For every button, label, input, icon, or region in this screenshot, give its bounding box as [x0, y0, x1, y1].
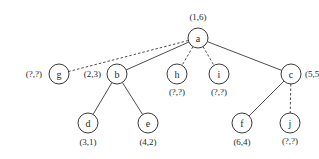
tree-node-g: g(?,?) [26, 64, 69, 84]
node-label: d [86, 118, 91, 129]
node-label: h [175, 69, 180, 80]
node-annotation: (4,2) [139, 137, 156, 147]
node-annotation: (3,1) [79, 137, 96, 147]
edge-a-i [203, 47, 214, 66]
node-label: e [146, 118, 151, 129]
node-annotation: (?,?) [26, 69, 42, 79]
node-annotation: (1,6) [189, 12, 206, 22]
tree-node-e: e(4,2) [138, 113, 158, 147]
node-annotation: (?,?) [282, 136, 298, 146]
edge-c-j [290, 84, 291, 113]
tree-node-j: j(?,?) [280, 113, 300, 146]
node-annotation: (5,5) [305, 69, 319, 79]
nodes: a(1,6)g(?,?)b(2,3)h(?,?)i(?,?)c(5,5)d(3,… [26, 12, 319, 147]
node-annotation: (?,?) [169, 87, 185, 97]
edge-c-f [249, 81, 284, 116]
tree-node-a: a(1,6) [188, 12, 208, 48]
node-label: b [115, 69, 120, 80]
node-label: g [57, 69, 62, 80]
node-label: a [196, 33, 201, 44]
node-annotation: (6,4) [233, 137, 250, 147]
edge-b-e [122, 82, 142, 114]
tree-node-f: f(6,4) [232, 113, 252, 147]
node-annotation: (?,?) [211, 87, 227, 97]
edge-b-d [93, 83, 112, 115]
node-label: c [289, 69, 294, 80]
tree-node-h: h(?,?) [167, 64, 187, 97]
edge-a-h [182, 47, 193, 66]
tree-node-i: i(?,?) [209, 64, 229, 97]
node-label: j [288, 118, 292, 129]
tree-node-d: d(3,1) [78, 113, 98, 147]
tree-node-c: c(5,5) [281, 64, 319, 84]
node-annotation: (2,3) [84, 69, 101, 79]
tree-diagram: a(1,6)g(?,?)b(2,3)h(?,?)i(?,?)c(5,5)d(3,… [0, 0, 319, 159]
node-label: i [218, 69, 221, 80]
tree-node-b: b(2,3) [84, 64, 127, 84]
